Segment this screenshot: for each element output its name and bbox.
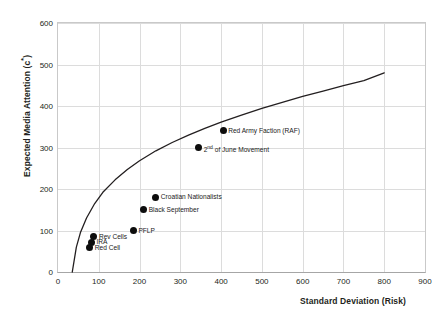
x-axis-tick-label: 0 [56, 277, 60, 286]
data-point-label: Croatian Nationalists [161, 192, 222, 201]
x-axis-tick-label: 600 [296, 277, 309, 286]
y-axis-title-superscript: * [20, 58, 27, 61]
data-point-label: Red Cell [95, 243, 120, 252]
x-axis-tick-label: 700 [337, 277, 350, 286]
y-axis-title: Expected Media Attention (c*) [20, 26, 32, 206]
x-axis-tick-label: 900 [418, 277, 431, 286]
y-axis-tick-label: 200 [40, 185, 53, 194]
x-axis-tick-label: 100 [92, 277, 105, 286]
y-axis-title-close: ) [22, 55, 32, 58]
y-axis-tick-label: 600 [40, 19, 53, 28]
x-axis-tick-label: 300 [174, 277, 187, 286]
x-axis-tick-label: 800 [378, 277, 391, 286]
data-point-label: Black September [149, 205, 199, 214]
x-axis-tick-label: 500 [255, 277, 268, 286]
data-point-label: PFLP [138, 226, 155, 235]
x-axis-tick-label: 400 [214, 277, 227, 286]
y-axis-title-text: Expected Media Attention (c [22, 61, 32, 177]
data-point-label: Red Army Faction (RAF) [228, 126, 300, 135]
scatter-chart-figure: Expected Media Attention (c*) Standard D… [0, 0, 443, 325]
y-axis-tick-label: 500 [40, 60, 53, 69]
x-axis-title: Standard Deviation (Risk) [300, 296, 406, 306]
data-point-marker [130, 227, 137, 234]
y-axis-tick-label: 100 [40, 226, 53, 235]
plot-area: 0100200300400500600 01002003004005006007… [57, 22, 426, 273]
data-point-label: 2nd of June Movement [204, 143, 269, 154]
x-axis-tick-label: 200 [133, 277, 146, 286]
y-axis-tick-label: 400 [40, 102, 53, 111]
y-axis-tick-label: 300 [40, 143, 53, 152]
y-axis-tick-label: 0 [49, 268, 53, 277]
